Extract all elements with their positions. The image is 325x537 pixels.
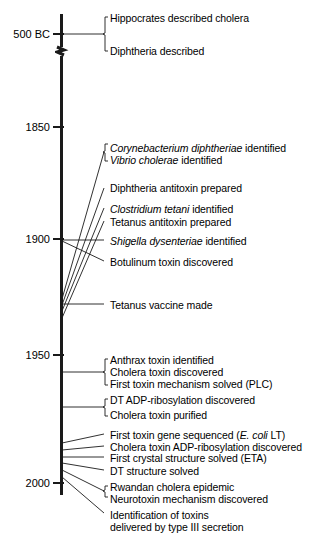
event-vibrio-cholerae: Vibrio cholerae identified [110,154,222,166]
tick-1900 [53,238,64,240]
event-suffix: LT) [268,429,286,441]
event-dt-structure-solved: DT structure solved [110,465,199,477]
event-suffix: identified [178,154,222,166]
year-label-1850: 1850 [0,122,50,133]
event-diphtheria-described: Diphtheria described [110,45,204,57]
event-neurotoxin-mechanism: Neurotoxin mechanism discovered [110,493,268,505]
tick-2000 [53,482,64,484]
taxon-name: Shigella dysenteriae [110,235,203,247]
timeline-figure: 500 BC 1850 1900 1950 2000 [0,0,325,537]
event-cholera-toxin-discovered: Cholera toxin discovered [110,366,223,378]
event-rwandan-cholera-epidemic: Rwandan cholera epidemic [110,481,234,493]
event-clostridium-tetani: Clostridium tetani identified [110,203,233,215]
event-suffix: identified [189,203,233,215]
event-identification-of-toxins-line2: delivered by type III secretion [110,521,243,533]
event-suffix: identified [242,142,286,154]
event-suffix: identified [203,235,247,247]
year-label-1950: 1950 [0,350,50,361]
tick-1850 [53,126,64,128]
event-hippocrates-cholera: Hippocrates described cholera [110,12,249,24]
time-axis-lower-segment [60,56,63,495]
event-botulinum-toxin: Botulinum toxin discovered [110,256,233,268]
taxon-name: Vibrio cholerae [110,154,178,166]
event-prefix: First toxin gene sequenced ( [110,429,240,441]
tick-500bc [53,33,64,35]
event-tetanus-vaccine: Tetanus vaccine made [110,299,212,311]
year-label-500bc: 500 BC [0,29,50,40]
time-axis-upper-segment [60,14,63,47]
event-tetanus-antitoxin: Tetanus antitoxin prepared [110,216,231,228]
event-anthrax-toxin: Anthrax toxin identified [110,354,214,366]
event-shigella-dysenteriae: Shigella dysenteriae identified [110,235,246,247]
event-corynebacterium-diphtheriae: Corynebacterium diphtheriae identified [110,142,286,154]
event-first-toxin-gene-sequenced: First toxin gene sequenced (E. coli LT) [110,429,285,441]
event-first-toxin-mechanism: First toxin mechanism solved (PLC) [110,378,272,390]
year-label-1900: 1900 [0,234,50,245]
year-label-2000: 2000 [0,478,50,489]
event-dt-adp-ribosylation: DT ADP-ribosylation discovered [110,394,255,406]
event-first-crystal-structure: First crystal structure solved (ETA) [110,452,267,464]
taxon-name: Clostridium tetani [110,203,189,215]
tick-1950 [53,354,64,356]
axis-break-icon [55,44,71,58]
event-diphtheria-antitoxin: Diphtheria antitoxin prepared [110,182,242,194]
taxon-name: E. coli [240,429,268,441]
event-cholera-toxin-purified: Cholera toxin purified [110,409,207,421]
event-identification-of-toxins-line1: Identification of toxins [110,509,209,521]
taxon-name: Corynebacterium diphtheriae [110,142,242,154]
